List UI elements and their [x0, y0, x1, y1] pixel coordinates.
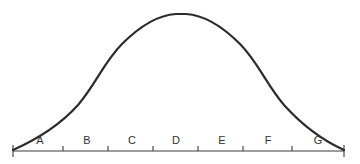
segment-label-c: C — [122, 134, 142, 146]
segment-label-e: E — [212, 134, 232, 146]
segment-label-g: G — [308, 134, 328, 146]
segment-label-d: D — [166, 134, 186, 146]
segment-label-f: F — [258, 134, 278, 146]
segment-label-b: B — [77, 134, 97, 146]
segment-label-a: A — [30, 134, 50, 146]
bell-curve-line — [13, 14, 344, 150]
bell-curve-diagram: A B C D E F G — [0, 0, 360, 164]
